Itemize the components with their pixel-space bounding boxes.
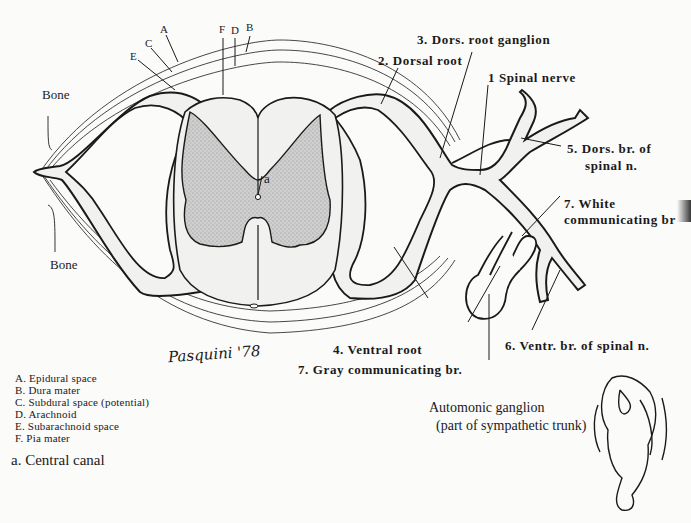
layer-letter-f: F: [219, 24, 225, 35]
label-autonomic-line1: Automonic ganglion: [429, 401, 545, 415]
central-canal: [255, 194, 260, 199]
label-white-comm-line1: 7. White: [564, 197, 616, 210]
creature-doodle: [594, 376, 666, 510]
layer-letter-d: D: [231, 25, 239, 36]
label-ventr-br: 6. Ventr. br. of spinal n.: [505, 339, 649, 352]
layer-letter-a: A: [160, 24, 168, 35]
spinal-cord-diagram: [0, 0, 691, 523]
label-spinal-nerve: 1 Spinal nerve: [488, 71, 576, 84]
label-white-comm-line2: communicating br: [564, 213, 676, 226]
layer-letter-c: C: [145, 38, 152, 49]
layer-letter-b: B: [246, 22, 253, 33]
label-ventral-root: 4. Ventral root: [333, 343, 422, 356]
label-dors-br-line1: 5. Dors. br. of: [567, 142, 651, 155]
legend-item: C. Subdural space (potential): [15, 396, 149, 408]
autonomic-ganglion: [466, 232, 536, 319]
legend-item: E. Subarachnoid space: [15, 420, 149, 432]
legend-item: D. Arachnoid: [15, 408, 149, 420]
page-edge-shadow: [677, 200, 691, 222]
legend-item: B. Dura mater: [15, 384, 149, 396]
layer-legend: A. Epidural space B. Dura mater C. Subdu…: [15, 372, 149, 444]
footnote-central-canal: a. Central canal: [11, 453, 105, 468]
legend-item: F. Pia mater: [15, 432, 149, 444]
central-canal-marker: a: [264, 172, 270, 185]
layer-letter-e: E: [130, 51, 137, 62]
label-dorsal-root: 2. Dorsal root: [378, 54, 462, 67]
label-dors-root-ganglion: 3. Dors. root ganglion: [417, 33, 550, 46]
label-autonomic-line2: (part of sympathetic trunk): [436, 419, 586, 433]
bone-label-bottom: Bone: [50, 258, 77, 271]
anterior-spinal-artery: [250, 304, 258, 308]
label-gray-comm: 7. Gray communicating br.: [298, 363, 462, 376]
legend-item: A. Epidural space: [15, 372, 149, 384]
spinal-cord: [174, 98, 343, 308]
bone-label-top: Bone: [42, 88, 69, 101]
label-dors-br-line2: spinal n.: [585, 159, 637, 172]
